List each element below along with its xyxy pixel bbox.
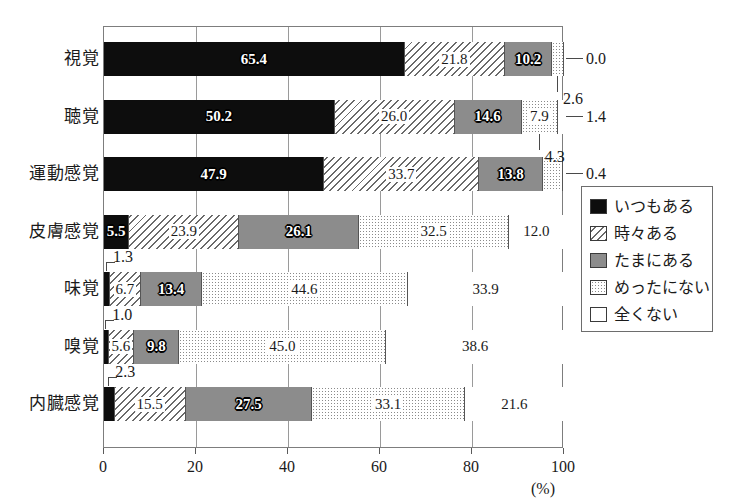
x-tick-mark — [471, 448, 472, 454]
bar-segment: 65.4 — [104, 42, 405, 76]
bar-segment: 7.9 — [522, 100, 558, 134]
bar-row: 50.226.014.67.9 — [104, 100, 564, 134]
callout-value-label: 2.6 — [563, 91, 583, 107]
segment-value-label: 38.6 — [462, 339, 488, 354]
bar-segment: 6.7 — [110, 272, 141, 306]
stacked-bar: 47.933.713.8 — [104, 157, 564, 191]
segment-value-label: 13.8 — [497, 167, 523, 182]
bar-segment: 14.6 — [455, 100, 522, 134]
x-tick-mark — [287, 448, 288, 454]
legend-label: たまにある — [614, 253, 694, 269]
callout-value-label: 2.3 — [115, 364, 135, 380]
bar-segment: 13.4 — [141, 272, 203, 306]
bar-segment: 33.1 — [312, 387, 464, 421]
x-axis-unit-label: (%) — [531, 481, 555, 497]
segment-value-label: 47.9 — [201, 167, 227, 182]
legend: いつもある時々あるたまにあるめったにない全くない — [581, 186, 713, 332]
legend-item: いつもある — [590, 193, 712, 220]
segment-value-label: 7.9 — [528, 109, 551, 124]
legend-item: 全くない — [590, 301, 712, 328]
bar-segment: 5.5 — [104, 215, 129, 249]
legend-item: めったにない — [590, 274, 712, 301]
segment-value-label: 33.1 — [373, 397, 403, 412]
leader-line — [566, 173, 583, 174]
callout-value-label: 0.0 — [586, 51, 606, 67]
bar-segment: 33.9 — [408, 272, 564, 306]
segment-value-label: 12.0 — [523, 224, 549, 239]
x-tick-mark — [195, 448, 196, 454]
stacked-bar: 5.69.845.038.6 — [104, 330, 564, 364]
leader-line — [566, 116, 583, 117]
stacked-bar: 65.421.810.2 — [104, 42, 564, 76]
x-tick-label: 100 — [543, 459, 583, 475]
stacked-bar: 5.523.926.132.512.0 — [104, 215, 564, 249]
leader-line — [108, 377, 109, 386]
x-tick-label: 80 — [451, 459, 491, 475]
x-tick-label: 40 — [267, 459, 307, 475]
segment-value-label: 45.0 — [267, 339, 297, 354]
callout-value-label: 4.3 — [545, 149, 565, 165]
legend-swatch-icon — [590, 226, 607, 241]
bar-segment: 32.5 — [359, 215, 509, 249]
category-label: 味覚 — [3, 280, 99, 297]
bar-segment: 12.0 — [509, 215, 564, 249]
legend-swatch-icon — [590, 199, 607, 214]
segment-value-label: 5.6 — [110, 339, 133, 354]
stacked-bar: 50.226.014.67.9 — [104, 100, 564, 134]
segment-value-label: 23.9 — [169, 224, 199, 239]
leader-line — [539, 134, 540, 150]
x-tick-label: 0 — [83, 459, 123, 475]
bar-row: 47.933.713.8 — [104, 157, 564, 191]
bar-segment: 9.8 — [134, 330, 179, 364]
segment-value-label: 14.6 — [474, 109, 500, 124]
segment-value-label: 6.7 — [114, 282, 137, 297]
segment-value-label: 21.6 — [501, 397, 527, 412]
legend-swatch-icon — [590, 280, 607, 295]
category-label: 運動感覚 — [3, 165, 99, 182]
bar-row: 6.713.444.633.9 — [104, 272, 564, 306]
bar-segment: 45.0 — [179, 330, 386, 364]
segment-value-label: 32.5 — [418, 224, 448, 239]
category-label: 視覚 — [3, 50, 99, 67]
x-tick-label: 60 — [359, 459, 399, 475]
bar-segment: 38.6 — [386, 330, 564, 364]
segment-value-label: 26.1 — [286, 224, 312, 239]
bar-segment: 23.9 — [129, 215, 239, 249]
segment-value-label: 50.2 — [206, 109, 232, 124]
leader-line — [106, 262, 107, 271]
leader-line — [105, 320, 106, 329]
segment-value-label: 15.5 — [135, 397, 165, 412]
x-tick-mark — [103, 448, 104, 454]
segment-value-label: 21.8 — [439, 52, 469, 67]
callout-value-label: 0.4 — [586, 166, 606, 182]
segment-value-label: 26.0 — [379, 109, 409, 124]
legend-item: たまにある — [590, 247, 712, 274]
segment-value-label: 65.4 — [241, 52, 267, 67]
bar-segment: 50.2 — [104, 100, 335, 134]
bar-segment: 26.1 — [239, 215, 359, 249]
segment-value-label: 10.2 — [515, 52, 541, 67]
bar-row: 65.421.810.2 — [104, 42, 564, 76]
legend-label: いつもある — [614, 199, 694, 215]
x-tick-label: 20 — [175, 459, 215, 475]
bar-segment: 33.7 — [324, 157, 479, 191]
bar-segment: 44.6 — [202, 272, 407, 306]
bar-segment: 15.5 — [115, 387, 186, 421]
bar-segment — [104, 387, 115, 421]
category-label: 嗅覚 — [3, 338, 99, 355]
legend-swatch-icon — [590, 253, 607, 268]
legend-item: 時々ある — [590, 220, 712, 247]
leader-line — [566, 58, 583, 59]
leader-line — [557, 76, 558, 92]
bar-segment: 13.8 — [479, 157, 542, 191]
segment-value-label: 33.9 — [472, 282, 498, 297]
x-tick-mark — [379, 448, 380, 454]
bar-segment: 27.5 — [186, 387, 313, 421]
stacked-bar-chart: 視覚聴覚運動感覚皮膚感覚味覚嗅覚内臓感覚 65.421.810.250.226.… — [0, 0, 733, 500]
segment-value-label: 9.8 — [147, 339, 166, 354]
callout-value-label: 1.4 — [586, 109, 606, 125]
callout-value-label: 1.0 — [112, 307, 132, 323]
bar-segment: 26.0 — [335, 100, 455, 134]
bar-row: 5.69.845.038.6 — [104, 330, 564, 364]
callout-value-label: 1.3 — [113, 249, 133, 265]
